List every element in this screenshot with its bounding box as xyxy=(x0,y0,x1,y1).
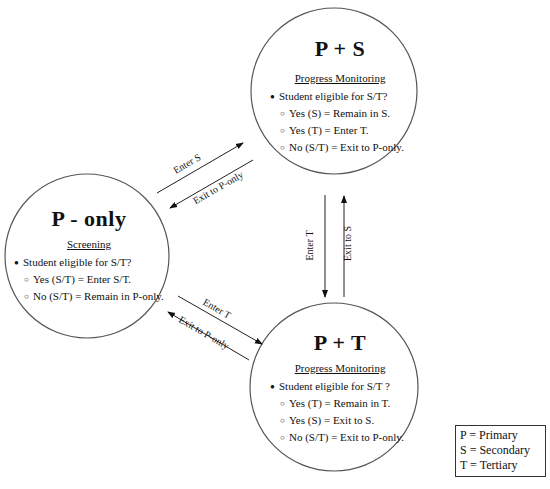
circle-bullet-icon: ○ xyxy=(280,430,289,446)
circle-bullet-icon: ○ xyxy=(280,140,289,156)
legend-item-tertiary: T = Tertiary xyxy=(460,458,545,473)
option-item: ○Yes (S) = Remain in S. xyxy=(270,105,410,122)
eligibility-question: ●Student eligible for S/T? xyxy=(14,254,164,271)
p-t-node: P + T Progress Monitoring ●Student eligi… xyxy=(270,330,410,446)
bullet-icon: ● xyxy=(270,89,279,105)
legend-box: P = Primary S = Secondary T = Tertiary xyxy=(455,425,546,477)
option-item: ○No (S/T) = Remain in P-only. xyxy=(14,288,164,305)
option-item: ○Yes (S/T) = Enter S/T. xyxy=(14,271,164,288)
legend-item-primary: P = Primary xyxy=(460,428,545,443)
option-item: ○No (S/T) = Exit to P-only. xyxy=(270,429,410,446)
option-item: ○No (S/T) = Exit to P-only. xyxy=(270,139,410,156)
t-to-s-label: Exit to S xyxy=(342,226,353,261)
node-subtitle: Progress Monitoring xyxy=(270,362,410,374)
circle-bullet-icon: ○ xyxy=(280,123,289,139)
circle-bullet-icon: ○ xyxy=(280,396,289,412)
eligibility-question: ●Student eligible for S/T? xyxy=(270,88,410,105)
eligibility-question: ●Student eligible for S/T ? xyxy=(270,378,410,395)
node-subtitle: Progress Monitoring xyxy=(270,72,410,84)
node-title: P + T xyxy=(270,330,410,356)
node-title: P - only xyxy=(14,206,164,232)
s-to-t-label: Enter T xyxy=(304,230,315,260)
bullet-icon: ● xyxy=(14,255,23,271)
bullet-icon: ● xyxy=(270,379,279,395)
tier-transition-diagram: Enter S Exit to P-only Enter T Exit to P… xyxy=(0,0,550,489)
p-s-node: P + S Progress Monitoring ●Student eligi… xyxy=(270,36,410,156)
legend-item-secondary: S = Secondary xyxy=(460,443,545,458)
circle-bullet-icon: ○ xyxy=(280,413,289,429)
node-title: P + S xyxy=(270,36,410,62)
option-item: ○Yes (T) = Remain in T. xyxy=(270,395,410,412)
circle-bullet-icon: ○ xyxy=(24,272,33,288)
circle-bullet-icon: ○ xyxy=(24,289,33,305)
circle-bullet-icon: ○ xyxy=(280,106,289,122)
node-subtitle: Screening xyxy=(14,238,164,250)
option-item: ○Yes (T) = Enter T. xyxy=(270,122,410,139)
option-item: ○Yes (S) = Exit to S. xyxy=(270,412,410,429)
p-only-node: P - only Screening ●Student eligible for… xyxy=(14,206,164,305)
